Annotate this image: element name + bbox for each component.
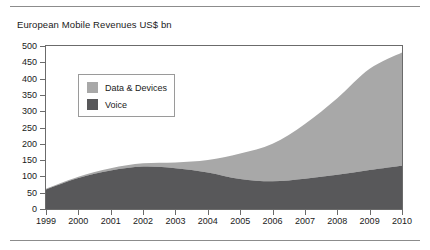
plot-area (45, 45, 403, 210)
legend-label-data-and-devices: Data & Devices (105, 83, 167, 93)
legend-swatch-data-and-devices-icon (87, 82, 98, 93)
legend-swatch-voice-icon (87, 99, 98, 110)
stacked-area-svg (46, 46, 402, 209)
legend-item-voice: Voice (87, 99, 127, 110)
legend-label-voice: Voice (105, 100, 127, 110)
chart-figure: European Mobile Revenues US$ bn 05010015… (0, 0, 430, 250)
legend-item-data-and-devices: Data & Devices (87, 82, 167, 93)
chart-legend: Data & Devices Voice (78, 74, 175, 117)
plot-wrapper (0, 0, 430, 250)
